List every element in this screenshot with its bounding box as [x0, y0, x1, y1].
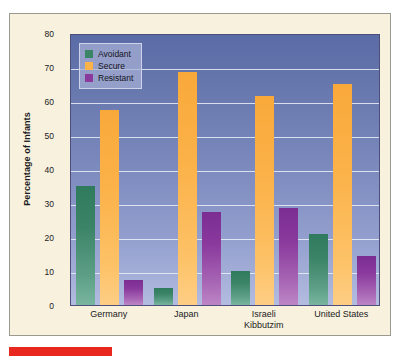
figure-card: Percentage of Infants 01020304050607080 … — [9, 13, 391, 336]
legend-label: Avoidant — [98, 49, 131, 59]
plot-area: AvoidantSecureResistant — [70, 34, 380, 306]
y-tick-label: 80 — [30, 29, 54, 39]
bar-avoidant-japan — [154, 288, 173, 305]
legend-swatch-icon — [85, 74, 93, 82]
y-tick-label: 70 — [30, 63, 54, 73]
x-tick-label-united-states: United States — [303, 309, 381, 320]
bar-secure-united-states — [333, 84, 352, 305]
y-tick-label: 40 — [30, 165, 54, 175]
legend-item-resistant: Resistant — [85, 72, 133, 84]
y-tick-label: 10 — [30, 267, 54, 277]
bar-secure-germany — [100, 110, 119, 306]
x-tick-label-line: United States — [303, 309, 381, 320]
bar-resistant-germany — [124, 280, 143, 306]
y-tick-label: 50 — [30, 131, 54, 141]
legend-swatch-icon — [85, 62, 93, 70]
legend-item-avoidant: Avoidant — [85, 48, 133, 60]
bar-avoidant-israeli-kibbutzim — [231, 271, 250, 305]
y-tick-label: 0 — [30, 301, 54, 311]
legend-swatch-icon — [85, 50, 93, 58]
bar-secure-israeli-kibbutzim — [255, 96, 274, 305]
chart-legend: AvoidantSecureResistant — [79, 43, 142, 89]
x-tick-label-japan: Japan — [148, 309, 226, 320]
bar-secure-japan — [178, 72, 197, 305]
x-tick-label-line: Germany — [70, 309, 148, 320]
bar-avoidant-united-states — [309, 234, 328, 305]
y-tick-label: 60 — [30, 97, 54, 107]
legend-item-secure: Secure — [85, 60, 133, 72]
x-tick-label-line: Kibbutzim — [225, 320, 303, 331]
x-tick-label-germany: Germany — [70, 309, 148, 320]
legend-label: Resistant — [98, 73, 133, 83]
x-tick-label-line: Japan — [148, 309, 226, 320]
caption-marker — [9, 347, 112, 356]
x-tick-label-israeli-kibbutzim: IsraeliKibbutzim — [225, 309, 303, 331]
bar-resistant-japan — [202, 212, 221, 306]
x-tick-label-line: Israeli — [225, 309, 303, 320]
legend-label: Secure — [98, 61, 125, 71]
bar-resistant-united-states — [357, 256, 376, 305]
bar-avoidant-germany — [76, 186, 95, 305]
y-tick-label: 20 — [30, 233, 54, 243]
y-tick-label: 30 — [30, 199, 54, 209]
bar-resistant-israeli-kibbutzim — [279, 208, 298, 305]
